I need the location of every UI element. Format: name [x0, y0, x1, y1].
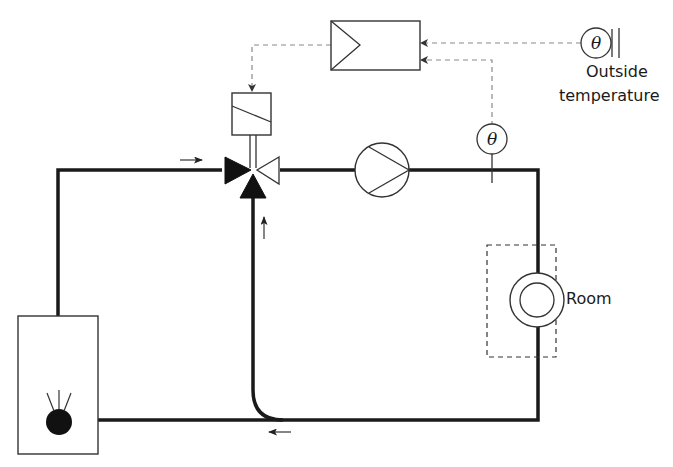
valve-inlet-left-icon [225, 157, 251, 184]
room [487, 245, 564, 357]
heating-circuit-diagram: θ θ [0, 0, 673, 467]
controller-box [331, 21, 420, 70]
theta-symbol: θ [487, 129, 497, 149]
controller [331, 21, 420, 70]
flow-arrows [180, 160, 291, 432]
burner-flame-icon [46, 409, 72, 435]
outside-temperature-label-line1: Outside [586, 64, 648, 80]
pump [355, 143, 409, 197]
supply-pipe-right [98, 170, 538, 420]
room-label: Room [566, 291, 612, 307]
boiler [18, 316, 98, 454]
valve-inlet-bottom-icon [240, 174, 266, 198]
pipes [58, 170, 538, 420]
pump-icon [355, 143, 409, 197]
valve-actuator [232, 93, 271, 168]
valve-outlet-right-icon [257, 157, 279, 184]
mixing-valve [225, 157, 279, 198]
controller-to-actuator-signal [252, 45, 331, 91]
outside-temperature-label-line2: temperature [559, 88, 660, 104]
bypass-pipe [253, 198, 283, 420]
outside-temperature-sensor: θ [581, 28, 619, 58]
theta-symbol: θ [591, 33, 601, 53]
flow-temperature-sensor: θ [477, 124, 507, 183]
supply-pipe-left [58, 170, 222, 316]
